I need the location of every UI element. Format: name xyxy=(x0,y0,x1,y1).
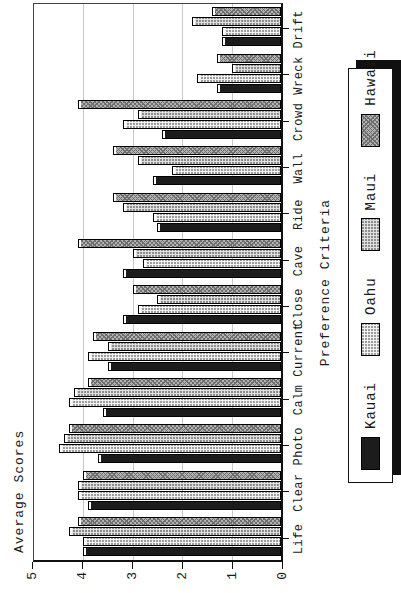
y-tick-4 xyxy=(82,562,83,569)
x-tick-cave xyxy=(283,260,289,261)
bar-hawaii-current xyxy=(93,332,281,341)
bar-hawaii-life xyxy=(78,517,281,526)
bar-oahu-clear xyxy=(78,491,281,500)
bar-hawaii-drift xyxy=(212,7,281,16)
bar-group-photo xyxy=(34,421,281,467)
legend-entry-hawaii: Hawaii xyxy=(361,49,380,146)
bar-group-wall xyxy=(34,143,281,189)
legend-label-maui: Maui xyxy=(363,173,379,211)
bar-maui-drift xyxy=(192,17,281,26)
x-tick-crowd xyxy=(283,121,289,122)
bar-hawaii-cave xyxy=(78,239,281,248)
bar-kauai-life xyxy=(83,547,281,556)
x-tick-label-current: Current xyxy=(292,330,306,376)
y-tick-3 xyxy=(132,562,133,569)
bar-kauai-calm xyxy=(103,408,281,417)
legend: KauaiOahuMauiHawaii xyxy=(348,68,393,483)
x-tick-wall xyxy=(283,167,289,168)
legend-entry-kauai: Kauai xyxy=(361,382,380,470)
bar-oahu-crowd xyxy=(123,120,281,129)
bar-group-drift xyxy=(34,4,281,50)
x-tick-close xyxy=(283,306,289,307)
y-tick-2 xyxy=(182,562,183,569)
x-tick-label-calm: Calm xyxy=(292,377,306,423)
legend-label-kauai: Kauai xyxy=(363,382,379,429)
x-tick-clear xyxy=(283,492,289,493)
x-tick-current xyxy=(283,353,289,354)
legend-entry-maui: Maui xyxy=(361,173,380,252)
bar-hawaii-wreck xyxy=(217,54,281,63)
bar-maui-ride xyxy=(123,203,281,212)
bar-hawaii-ride xyxy=(113,193,281,202)
y-tick-label-5: 5 xyxy=(26,572,39,593)
bar-kauai-ride xyxy=(157,223,281,232)
x-tick-label-wall: Wall xyxy=(292,145,306,191)
y-tick-label-2: 2 xyxy=(176,572,189,593)
x-tick-label-drift: Drift xyxy=(292,6,306,52)
bar-hawaii-calm xyxy=(88,378,281,387)
plot-area xyxy=(33,3,283,562)
legend-entry-oahu: Oahu xyxy=(361,277,380,356)
bar-oahu-close xyxy=(138,305,281,314)
x-tick-label-wreck: Wreck xyxy=(292,52,306,98)
bar-group-cave xyxy=(34,236,281,282)
bar-maui-calm xyxy=(74,388,281,397)
bar-hawaii-wall xyxy=(113,146,281,155)
bar-kauai-wall xyxy=(153,176,281,185)
bar-hawaii-crowd xyxy=(78,100,281,109)
bar-oahu-ride xyxy=(153,213,281,222)
bar-maui-wall xyxy=(138,156,281,165)
bar-hawaii-photo xyxy=(69,424,281,433)
y-axis-title: Average Scores xyxy=(12,430,27,553)
bar-kauai-wreck xyxy=(217,84,281,93)
bar-group-ride xyxy=(34,189,281,235)
x-tick-life xyxy=(283,538,289,539)
bar-oahu-drift xyxy=(222,27,281,36)
legend-label-oahu: Oahu xyxy=(363,277,379,315)
bar-maui-crowd xyxy=(138,110,281,119)
bar-group-wreck xyxy=(34,50,281,96)
legend-swatch-hawaii xyxy=(361,114,380,147)
bar-kauai-drift xyxy=(222,37,281,46)
x-tick-ride xyxy=(283,214,289,215)
bar-oahu-calm xyxy=(69,398,281,407)
y-tick-label-4: 4 xyxy=(76,572,89,593)
bar-maui-clear xyxy=(78,481,281,490)
bar-maui-current xyxy=(108,342,281,351)
bar-maui-wreck xyxy=(232,64,281,73)
x-tick-label-clear: Clear xyxy=(292,469,306,515)
bar-oahu-wall xyxy=(172,166,281,175)
bar-oahu-current xyxy=(88,352,281,361)
legend-swatch-oahu xyxy=(361,323,380,356)
bar-kauai-photo xyxy=(98,454,281,463)
bar-kauai-crowd xyxy=(162,130,281,139)
bar-maui-photo xyxy=(64,434,281,443)
bar-oahu-cave xyxy=(143,259,281,268)
bar-kauai-cave xyxy=(123,269,281,278)
bar-oahu-photo xyxy=(59,444,281,453)
bar-kauai-current xyxy=(108,362,281,371)
x-tick-label-cave: Cave xyxy=(292,238,306,284)
bar-maui-life xyxy=(69,527,281,536)
bar-group-close xyxy=(34,282,281,328)
bar-hawaii-clear xyxy=(83,471,281,480)
x-tick-label-ride: Ride xyxy=(292,191,306,237)
x-tick-drift xyxy=(283,28,289,29)
legend-label-hawaii: Hawaii xyxy=(363,49,379,105)
y-tick-label-3: 3 xyxy=(126,572,139,593)
bar-kauai-close xyxy=(123,315,281,324)
y-tick-label-0: 0 xyxy=(276,572,289,593)
bar-group-calm xyxy=(34,375,281,421)
x-tick-label-photo: Photo xyxy=(292,423,306,469)
legend-swatch-maui xyxy=(361,218,380,251)
y-tick-1 xyxy=(232,562,233,569)
x-tick-label-life: Life xyxy=(292,516,306,562)
y-tick-0 xyxy=(282,562,283,569)
x-tick-label-close: Close xyxy=(292,284,306,330)
bar-kauai-clear xyxy=(88,501,281,510)
x-tick-photo xyxy=(283,445,289,446)
bar-maui-close xyxy=(157,295,281,304)
y-tick-5 xyxy=(32,562,33,569)
y-tick-label-1: 1 xyxy=(226,572,239,593)
